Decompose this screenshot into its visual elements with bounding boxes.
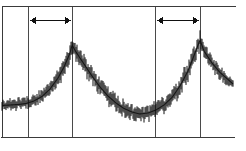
arrow-head-right bbox=[193, 17, 199, 24]
arrow-head-left bbox=[30, 17, 36, 24]
annotation-arrow-1 bbox=[30, 17, 71, 24]
arrow-head-left bbox=[157, 17, 163, 24]
annotation-arrow-layer bbox=[30, 17, 199, 24]
gridline-layer bbox=[29, 6, 201, 137]
trace-plot bbox=[0, 0, 246, 151]
figure-container bbox=[0, 0, 246, 151]
arrow-head-right bbox=[65, 17, 71, 24]
signal-trace bbox=[2, 30, 233, 122]
annotation-arrow-2 bbox=[157, 17, 199, 24]
